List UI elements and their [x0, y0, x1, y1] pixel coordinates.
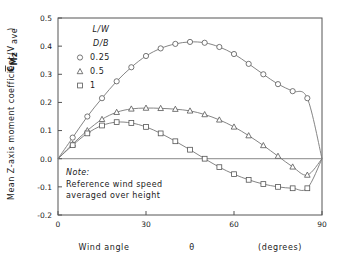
- y-axis-title: Mean Z-axis moment coefficient C Mz (V a…: [6, 27, 19, 200]
- data-point-marker: [246, 133, 252, 138]
- legend: L/W D/B 0.250.51: [77, 25, 110, 90]
- data-point-marker: [246, 61, 251, 66]
- data-point-marker: [305, 186, 310, 191]
- series-0-5: [58, 105, 322, 177]
- data-point-marker: [188, 147, 193, 152]
- data-point-marker: [173, 139, 178, 144]
- note-line-2: averaged over height: [66, 191, 160, 200]
- data-point-marker: [290, 186, 295, 191]
- y-tick-label: 0.2: [40, 98, 52, 107]
- data-point-marker: [143, 53, 148, 58]
- data-point-marker: [232, 172, 237, 177]
- y-tick-label: -0.1: [37, 183, 52, 192]
- legend-marker-circle: [77, 55, 82, 60]
- x-axis-ticks: 0306090: [56, 211, 327, 229]
- data-point-marker: [85, 114, 90, 119]
- chart-figure: -0.2-0.10.00.10.20.30.40.5 0306090 L/W D…: [0, 0, 342, 260]
- data-point-marker: [70, 143, 75, 148]
- y-tick-label: 0.3: [40, 70, 52, 79]
- x-tick-label: 60: [229, 220, 239, 229]
- legend-marker-triangle: [77, 69, 83, 74]
- data-point-marker: [202, 156, 207, 161]
- chart-svg: -0.2-0.10.00.10.20.30.40.5 0306090 L/W D…: [0, 0, 342, 260]
- data-point-marker: [231, 124, 237, 129]
- data-point-marker: [114, 120, 119, 125]
- data-point-marker: [99, 96, 104, 101]
- data-point-marker: [290, 164, 296, 169]
- data-point-marker: [187, 39, 192, 44]
- y-axis-title-text: Mean Z-axis moment coefficient: [7, 56, 16, 200]
- data-point-marker: [275, 82, 280, 87]
- x-tick-label: 30: [141, 220, 151, 229]
- legend-marker-square: [78, 83, 83, 88]
- data-point-marker: [100, 123, 105, 128]
- y-tick-label: 0.0: [40, 155, 52, 164]
- legend-label: 0.5: [90, 67, 104, 76]
- data-point-marker: [158, 131, 163, 136]
- data-point-marker: [290, 89, 295, 94]
- data-point-marker: [275, 153, 281, 158]
- data-point-marker: [305, 172, 311, 177]
- y-tick-label: 0.5: [40, 14, 52, 23]
- data-point-marker: [70, 135, 75, 140]
- data-point-marker: [144, 125, 149, 130]
- legend-label: 1: [90, 81, 96, 90]
- legend-label: 0.25: [90, 53, 110, 62]
- x-axis-title-name: Wind angle: [79, 243, 130, 252]
- y-axis-symbol-arg: (V: [7, 45, 16, 55]
- x-axis-title-symbol: θ: [189, 243, 195, 252]
- data-point-marker: [217, 44, 222, 49]
- data-point-marker: [261, 182, 266, 187]
- data-point-marker: [217, 165, 222, 170]
- y-tick-label: 0.1: [40, 126, 52, 135]
- y-tick-label: -0.2: [37, 211, 52, 220]
- x-tick-label: 90: [317, 220, 327, 229]
- legend-entries: 0.250.51: [77, 53, 110, 90]
- note-block: Note: Reference wind speed averaged over…: [66, 168, 162, 200]
- x-axis-title: Wind angle θ (degrees): [79, 243, 302, 252]
- note-line-1: Reference wind speed: [66, 180, 162, 189]
- data-point-marker: [261, 72, 266, 77]
- data-series-group: [58, 39, 322, 190]
- data-point-marker: [129, 65, 134, 70]
- y-axis-symbol-close: ): [7, 27, 16, 31]
- note-heading: Note:: [66, 168, 90, 177]
- series-line: [58, 108, 322, 175]
- data-point-marker: [99, 116, 105, 121]
- data-point-marker: [231, 51, 236, 56]
- legend-header-denominator: D/B: [93, 39, 109, 48]
- data-point-marker: [85, 131, 90, 136]
- data-point-marker: [261, 142, 267, 147]
- x-axis-title-units: (degrees): [258, 243, 302, 252]
- legend-header-numerator: L/W: [93, 25, 110, 34]
- y-tick-label: 0.4: [40, 42, 52, 51]
- data-point-marker: [202, 40, 207, 45]
- data-point-marker: [173, 41, 178, 46]
- data-point-marker: [114, 79, 119, 84]
- data-point-marker: [276, 184, 281, 189]
- data-point-marker: [305, 96, 310, 101]
- x-tick-label: 0: [56, 220, 61, 229]
- data-point-marker: [158, 46, 163, 51]
- data-point-marker: [246, 177, 251, 182]
- y-axis-symbol-c: C: [7, 66, 16, 72]
- data-point-marker: [129, 121, 134, 126]
